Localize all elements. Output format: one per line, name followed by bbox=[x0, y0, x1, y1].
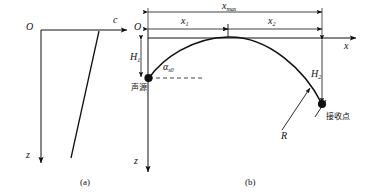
figure-ray-path-diagram: O c z (a) O x z xmax x1 x2 H1 H2 αs0 R 声… bbox=[0, 0, 368, 195]
figure-canvas bbox=[0, 0, 368, 195]
panel-a-graphics bbox=[41, 30, 127, 163]
dim-label-h1: H1 bbox=[130, 52, 140, 63]
angle-label-alpha-s0: αs0 bbox=[163, 62, 173, 73]
receiver-point-marker bbox=[318, 100, 326, 108]
dim-label-h2: H2 bbox=[311, 69, 321, 80]
dim-label-h1-sub: 1 bbox=[137, 56, 140, 63]
source-point-marker bbox=[144, 74, 152, 82]
panel-a-origin-label: O bbox=[26, 22, 33, 32]
radius-leader-line bbox=[282, 88, 310, 130]
panel-a-z-axis-label: z bbox=[26, 150, 30, 160]
dim-label-h2-sub: 2 bbox=[318, 73, 321, 80]
dim-label-x2-sub: 2 bbox=[272, 20, 275, 27]
dim-label-x1-sub: 1 bbox=[185, 20, 188, 27]
dim-label-xmax-sub: max bbox=[226, 5, 236, 12]
panel-a-c-axis-label: c bbox=[113, 15, 117, 25]
panel-b-z-axis-label: z bbox=[134, 156, 138, 166]
panel-a-caption: (a) bbox=[80, 178, 90, 187]
dim-label-x2: x2 bbox=[268, 16, 275, 27]
source-point-label: 声源 bbox=[131, 84, 147, 92]
panel-b-x-axis-label: x bbox=[344, 41, 348, 51]
panel-b-origin-label: O bbox=[134, 22, 141, 32]
ray-path-arc bbox=[149, 37, 322, 104]
panel-b-caption: (b) bbox=[245, 178, 256, 187]
receiver-point-label: 接收点 bbox=[326, 113, 349, 121]
dim-label-radius: R bbox=[281, 131, 287, 141]
dim-label-x1: x1 bbox=[181, 16, 188, 27]
dim-label-xmax: xmax bbox=[222, 1, 236, 12]
angle-label-subscript: s0 bbox=[168, 66, 173, 73]
panel-a-profile-line bbox=[71, 31, 99, 158]
panel-b-graphics bbox=[141, 8, 356, 172]
